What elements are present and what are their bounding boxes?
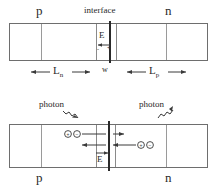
- bottom-field-arrow-group: [0, 0, 217, 191]
- bottom-label-n: n: [165, 171, 172, 184]
- figure-canvas: p interface n E - + Ln w Lp photon photo…: [0, 0, 217, 191]
- bottom-field-label-E: E: [97, 155, 103, 164]
- bottom-label-p: p: [36, 171, 43, 184]
